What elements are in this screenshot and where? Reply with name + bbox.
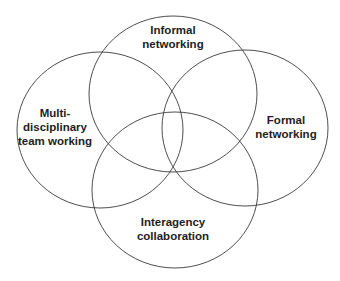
label-line: disciplinary [18,120,92,134]
label-line: Informal [142,23,203,37]
label-line: team working [18,134,92,148]
circle-interagency-collaboration [92,112,258,268]
label-line: Formal [255,113,316,127]
label-line: networking [255,127,316,141]
label-multidisciplinary-team-working: Multi- disciplinary team working [18,106,92,148]
label-informal-networking: Informal networking [142,23,203,51]
label-line: Interagency [137,215,209,229]
label-formal-networking: Formal networking [255,113,316,141]
label-interagency-collaboration: Interagency collaboration [137,215,209,243]
label-line: Multi- [18,106,92,120]
label-line: networking [142,37,203,51]
label-line: collaboration [137,229,209,243]
